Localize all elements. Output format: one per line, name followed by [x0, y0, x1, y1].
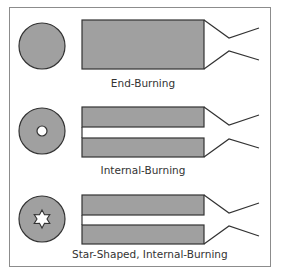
- internal-burning-group: [19, 107, 259, 157]
- end-burning-cross-section: [19, 23, 65, 69]
- rocket-grain-diagram: [0, 0, 281, 277]
- internal-burning-nozzle-bottom: [204, 139, 259, 157]
- internal-burning-grain-top: [82, 107, 204, 127]
- internal-burning-label: Internal-Burning: [82, 164, 204, 176]
- end-burning-label: End-Burning: [82, 77, 204, 89]
- internal-burning-grain-bottom: [82, 138, 204, 157]
- internal-burning-nozzle-top: [204, 107, 259, 125]
- end-burning-nozzle-bottom: [204, 51, 259, 69]
- end-burning-grain: [82, 20, 204, 69]
- star-internal-burning-nozzle-top: [204, 195, 259, 213]
- end-burning-nozzle-top: [204, 20, 259, 38]
- star-internal-burning-group: [19, 195, 259, 244]
- star-internal-burning-label: Star-Shaped, Internal-Burning: [72, 248, 222, 260]
- star-internal-burning-grain-top: [82, 195, 204, 215]
- internal-burning-bore-hole: [37, 126, 47, 136]
- end-burning-group: [19, 20, 259, 69]
- star-internal-burning-grain-bottom: [82, 225, 204, 244]
- star-internal-burning-nozzle-bottom: [204, 226, 259, 244]
